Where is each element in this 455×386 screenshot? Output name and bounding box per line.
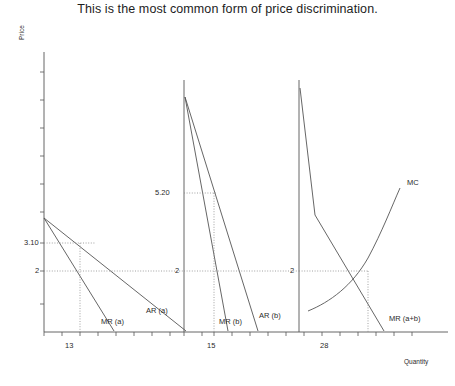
mc-label: MC (407, 178, 419, 187)
x-axis-ticks (44, 332, 412, 336)
price-label-520: 5.20 (155, 188, 170, 197)
mr-ab-label: MR (a+b) (389, 314, 420, 323)
ar-b-label: AR (b) (259, 311, 281, 320)
mr-ab-curve (300, 88, 384, 331)
mc-curve (308, 188, 400, 311)
mr-b-label: MR (b) (219, 317, 242, 326)
price-label-310: 3.10 (24, 238, 39, 247)
price-discrimination-figure: This is the most common form of price di… (0, 0, 455, 386)
price-label-2-mid: 2 (175, 266, 179, 275)
quantity-label-13: 13 (65, 341, 73, 350)
guide-lines (44, 193, 368, 332)
ar-a-label: AR (a) (146, 306, 168, 315)
mr-a-curve (44, 218, 114, 331)
price-label-2-left: 2 (35, 266, 39, 275)
quantity-label-28: 28 (320, 341, 328, 350)
mr-a-label: MR (a) (101, 317, 124, 326)
price-label-2-right: 2 (290, 266, 294, 275)
panel-a-y-ticks (40, 72, 44, 304)
quantity-label-15: 15 (207, 341, 215, 350)
chart-canvas (0, 0, 455, 386)
